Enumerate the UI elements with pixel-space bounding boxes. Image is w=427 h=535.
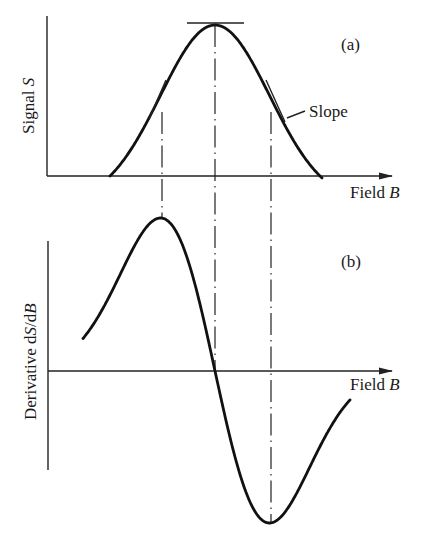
signal-derivative-diagram: Slope (a) Signal S Field B (b) Derivativ… bbox=[0, 0, 427, 535]
panel-b-x-axis-label: Field B bbox=[350, 375, 400, 394]
slope-annotation: Slope bbox=[309, 102, 348, 121]
panel-b-tag: (b) bbox=[341, 252, 361, 271]
panel-a-tag: (a) bbox=[341, 35, 360, 54]
slope-tangent-right bbox=[266, 80, 285, 122]
panel-a-x-axis-label: Field B bbox=[350, 183, 400, 202]
slope-tangent-left bbox=[149, 80, 166, 119]
signal-gaussian-curve bbox=[110, 25, 322, 178]
panel-b-derivative: (b) Derivative dS/dB Field B bbox=[21, 218, 400, 523]
panel-a-y-axis-label: Signal S bbox=[19, 77, 38, 134]
alignment-guides bbox=[162, 25, 271, 523]
slope-leader-line bbox=[287, 111, 305, 118]
panel-b-y-axis-label: Derivative dS/dB bbox=[21, 303, 40, 420]
panel-a-signal: Slope (a) Signal S Field B bbox=[19, 16, 400, 202]
